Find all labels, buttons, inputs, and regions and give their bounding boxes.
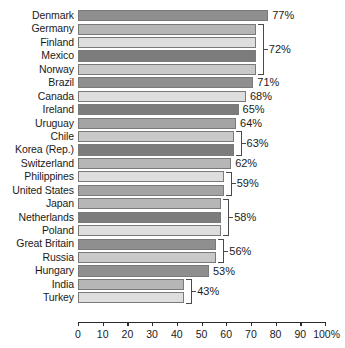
value-annotations: 77%72%71%68%65%64%63%62%59%58%56%53%43% xyxy=(0,9,345,311)
x-axis-tick-label: 100% xyxy=(313,328,340,340)
group-bracket-stem xyxy=(264,49,268,50)
x-axis-tick-label: 20 xyxy=(122,328,134,340)
bar-value-label: 58% xyxy=(234,212,256,223)
bar-value-label: 53% xyxy=(213,266,235,277)
bar-value-label: 77% xyxy=(272,10,294,21)
bar-value-label: 56% xyxy=(229,246,251,257)
bar-value-label: 71% xyxy=(257,77,279,88)
group-bracket-stem xyxy=(224,251,228,252)
x-axis-tick-label: 50 xyxy=(196,328,208,340)
bar-value-label: 62% xyxy=(235,158,257,169)
x-axis-tick-label: 90 xyxy=(294,328,306,340)
group-bracket-stem xyxy=(232,183,236,184)
x-axis-tick xyxy=(152,322,153,326)
x-axis-tick xyxy=(276,322,277,326)
x-axis-tick-label: 0 xyxy=(75,328,81,340)
x-axis-tick-label: 60 xyxy=(220,328,232,340)
x-axis-tick-label: 30 xyxy=(146,328,158,340)
bar-value-label: 64% xyxy=(240,118,262,129)
group-bracket-stem xyxy=(242,143,246,144)
bar-value-label: 65% xyxy=(243,104,265,115)
x-axis-tick-label: 80 xyxy=(270,328,282,340)
x-axis-tick xyxy=(300,322,301,326)
bar-value-label: 68% xyxy=(250,91,272,102)
x-axis-tick xyxy=(177,322,178,326)
bar-value-label: 72% xyxy=(269,44,291,55)
bar-value-label: 43% xyxy=(197,286,219,297)
x-axis-tick xyxy=(202,322,203,326)
x-axis-tick-label: 10 xyxy=(97,328,109,340)
x-axis-tick xyxy=(127,322,128,326)
group-bracket-stem xyxy=(229,217,233,218)
x-axis-tick-label: 40 xyxy=(171,328,183,340)
x-axis-tick xyxy=(78,322,79,326)
bar-value-label: 63% xyxy=(247,138,269,149)
x-axis-tick-label: 70 xyxy=(245,328,257,340)
x-axis-tick xyxy=(103,322,104,326)
x-axis-tick xyxy=(325,322,326,326)
x-axis-tick xyxy=(226,322,227,326)
bar-chart: DenmarkGermanyFinlandMexicoNorwayBrazilC… xyxy=(0,0,345,348)
x-axis-tick xyxy=(251,322,252,326)
bar-value-label: 59% xyxy=(237,178,259,189)
group-bracket-stem xyxy=(192,291,196,292)
